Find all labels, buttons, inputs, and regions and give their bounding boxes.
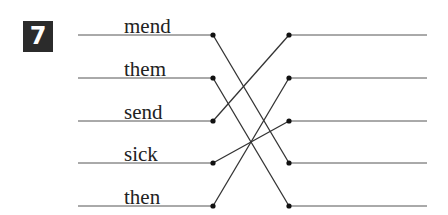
- connector-2-0: [213, 35, 289, 121]
- left-answer-lines: [78, 35, 213, 206]
- connection-dots: [210, 32, 291, 208]
- right-dot-0: [286, 32, 291, 37]
- right-dot-2: [286, 118, 291, 123]
- right-dot-1: [286, 75, 291, 80]
- connector-lines: [213, 35, 289, 206]
- left-dot-1: [210, 75, 215, 80]
- left-dot-0: [210, 32, 215, 37]
- matching-lines: [0, 0, 448, 215]
- left-dot-2: [210, 118, 215, 123]
- left-dot-3: [210, 160, 215, 165]
- right-dot-3: [286, 160, 291, 165]
- left-dot-4: [210, 203, 215, 208]
- right-dot-4: [286, 203, 291, 208]
- connector-0-3: [213, 35, 289, 163]
- right-answer-lines: [289, 35, 427, 206]
